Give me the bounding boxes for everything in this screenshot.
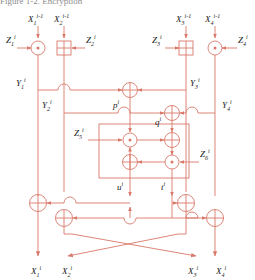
op-mul-z6	[165, 155, 179, 169]
label-y2: Y2i	[42, 99, 52, 112]
idea-round-diagram: Figure 1-2. Encryption	[0, 0, 255, 280]
label-t: ti	[161, 181, 166, 192]
label-z6: Z6i	[200, 148, 210, 161]
label-x1-out: X1i	[30, 265, 42, 278]
op-add-2	[57, 41, 71, 55]
svg-text:X4i-1: X4i-1	[204, 13, 220, 26]
op-xor-p	[123, 83, 138, 98]
svg-text:Y1i: Y1i	[16, 77, 26, 90]
svg-text:Z4i: Z4i	[238, 34, 248, 47]
wire-t-to-out-xor4	[172, 212, 206, 218]
ma-box-outline	[99, 124, 189, 178]
label-y3: Y3i	[190, 77, 200, 90]
swap-crossing-left	[64, 227, 196, 257]
svg-text:X4i: X4i	[215, 265, 227, 278]
label-x4-out: X4i	[215, 265, 227, 278]
label-x2-out: X2i	[61, 265, 73, 278]
op-xor-q	[165, 106, 180, 121]
svg-text:pi: pi	[112, 99, 120, 110]
svg-text:Z1i: Z1i	[6, 34, 16, 47]
label-x3-out: X3i	[187, 265, 199, 278]
wire-u-to-out-xor1	[47, 197, 130, 203]
op-mul-4	[208, 41, 222, 55]
svg-text:X2i: X2i	[61, 265, 73, 278]
label-z4: Z4i	[238, 34, 248, 47]
label-x4-in: X4i-1	[204, 13, 220, 26]
label-q: qi	[155, 116, 162, 127]
svg-text:X1i-1: X1i-1	[27, 13, 43, 26]
label-x1-in: X1i-1	[27, 13, 43, 26]
svg-text:X2i-1: X2i-1	[53, 13, 69, 26]
label-u: ui	[117, 181, 124, 192]
label-z1: Z1i	[6, 34, 16, 47]
svg-text:Z3i: Z3i	[152, 34, 162, 47]
branch-y4-to-xor-q	[180, 107, 215, 113]
svg-text:X1i: X1i	[30, 265, 42, 278]
svg-text:Y2i: Y2i	[42, 99, 52, 112]
label-x2-in: X2i-1	[53, 13, 69, 26]
op-mul-1	[31, 41, 45, 55]
svg-text:ti: ti	[161, 181, 166, 192]
label-p: pi	[112, 99, 120, 110]
svg-text:Z6i: Z6i	[200, 148, 210, 161]
op-add-3	[179, 41, 193, 55]
svg-text:qi: qi	[155, 116, 162, 127]
label-z2: Z2i	[86, 34, 96, 47]
svg-text:X3i-1: X3i-1	[175, 13, 191, 26]
figure-caption-fragment: Figure 1-2. Encryption	[0, 0, 255, 9]
svg-text:ui: ui	[117, 181, 124, 192]
op-xor-o4	[207, 210, 224, 227]
svg-text:Y4i: Y4i	[222, 99, 232, 112]
op-xor-o1	[30, 195, 47, 212]
svg-text:Y3i: Y3i	[190, 77, 200, 90]
label-z3: Z3i	[152, 34, 162, 47]
label-y1: Y1i	[16, 77, 26, 90]
svg-text:Z5i: Z5i	[74, 127, 84, 140]
branch-y1-to-xor-p	[38, 84, 122, 90]
op-xor-o2	[56, 210, 73, 227]
label-y4: Y4i	[222, 99, 232, 112]
diagram-canvas: X1i-1 X2i-1 X3i-1 X4i-1 Z1i Z2i	[0, 0, 255, 280]
figure-caption-text: Figure 1-2. Encryption	[0, 0, 255, 6]
op-mul-z5	[123, 133, 137, 147]
svg-text:X3i: X3i	[187, 265, 199, 278]
label-x3-in: X3i-1	[175, 13, 191, 26]
op-xor-ma	[165, 133, 180, 148]
wire-u-to-out-xor2	[73, 218, 172, 224]
op-xor-o3	[178, 195, 195, 212]
label-z5: Z5i	[74, 127, 84, 140]
svg-text:Z2i: Z2i	[86, 34, 96, 47]
